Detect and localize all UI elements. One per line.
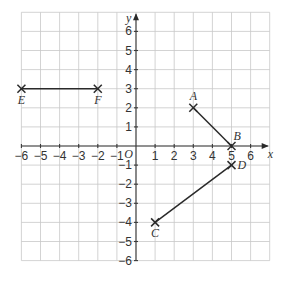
y-tick-label: −2 <box>118 177 132 191</box>
x-tick-label: 3 <box>190 149 197 163</box>
y-tick-label: −3 <box>118 196 132 210</box>
y-axis-label: y <box>125 11 132 25</box>
point-A: A <box>189 89 198 112</box>
origin-label: O <box>124 147 133 161</box>
point-label-B: B <box>234 129 242 143</box>
x-tick-label: 4 <box>209 149 216 163</box>
x-tick-label: 6 <box>247 149 254 163</box>
x-tick-label: 2 <box>171 149 178 163</box>
point-label-D: D <box>237 158 247 172</box>
coordinate-grid: xy −6−5−4−3−2−1123456654321−1−2−3−4−5−6O… <box>0 0 288 281</box>
point-label-E: E <box>17 93 26 107</box>
point-B: B <box>228 129 242 150</box>
x-tick-label: 1 <box>152 149 159 163</box>
y-tick-label: 2 <box>125 101 132 115</box>
point-C: C <box>151 218 160 240</box>
point-label-F: F <box>93 93 102 107</box>
y-tick-label: 3 <box>125 82 132 96</box>
x-axis-label: x <box>267 147 274 161</box>
y-tick-label: −4 <box>118 215 132 229</box>
y-tick-label: 5 <box>125 44 132 58</box>
point-label-C: C <box>151 226 160 240</box>
coordinate-diagram: xy −6−5−4−3−2−1123456654321−1−2−3−4−5−6O… <box>0 0 288 281</box>
y-tick-label: 4 <box>125 63 132 77</box>
y-tick-label: −6 <box>118 254 132 268</box>
x-tick-label: −5 <box>34 149 48 163</box>
y-tick-label: 1 <box>125 120 132 134</box>
x-tick-label: −6 <box>15 149 29 163</box>
x-tick-label: 5 <box>228 149 235 163</box>
x-tick-label: −4 <box>53 149 67 163</box>
point-label-A: A <box>189 89 198 103</box>
grid-lines <box>21 12 269 260</box>
y-axis-arrow-icon <box>133 13 139 20</box>
x-tick-label: −2 <box>91 149 105 163</box>
y-tick-label: −5 <box>118 235 132 249</box>
x-tick-label: −3 <box>72 149 86 163</box>
y-tick-label: 6 <box>125 24 132 38</box>
